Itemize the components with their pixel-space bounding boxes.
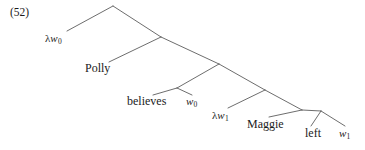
leaf-left: left: [305, 127, 321, 139]
tree-branch: [228, 90, 265, 108]
leaf-lambda-w0-var: w: [50, 32, 57, 44]
tree-branch: [161, 37, 219, 64]
leaf-believes: believes: [127, 95, 166, 107]
leaf-lambda-w1-var: w: [217, 109, 224, 121]
tree-branch: [265, 90, 302, 110]
tree-branch: [109, 37, 161, 62]
syntax-tree-figure: (52) λw0 Polly believes w0 λw1 Maggie le…: [0, 0, 365, 150]
tree-branch: [67, 6, 113, 31]
leaf-polly: Polly: [85, 62, 110, 74]
tree-branch: [269, 110, 302, 117]
tree-branch: [177, 88, 192, 95]
leaf-lambda-w1: λw1: [212, 110, 229, 122]
leaf-lambda-w1-subscript: 1: [225, 114, 229, 123]
leaf-lambda-w0-subscript: 0: [58, 37, 62, 46]
leaf-world-variable-w0: w0: [186, 96, 197, 108]
tree-branch: [113, 6, 161, 37]
leaf-world-variable-w1-subscript: 1: [346, 132, 350, 141]
tree-branch: [302, 110, 321, 111]
leaf-world-variable-w0-subscript: 0: [193, 100, 197, 109]
tree-branch: [219, 64, 265, 90]
leaf-maggie: Maggie: [247, 118, 284, 130]
tree-branch: [177, 64, 219, 88]
leaf-lambda-w0: λw0: [45, 33, 62, 45]
tree-branch: [321, 111, 345, 126]
leaf-world-variable-w1: w1: [339, 128, 350, 140]
tree-branch: [311, 111, 321, 126]
